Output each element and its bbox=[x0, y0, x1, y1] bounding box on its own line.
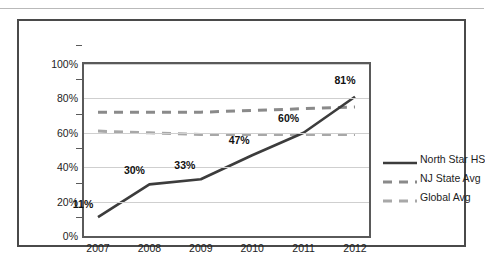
legend-item-nj-state-avg[interactable]: NJ State Avg bbox=[383, 168, 481, 187]
y-tick-label: 100% bbox=[38, 58, 78, 70]
y-tick-label: 60% bbox=[38, 127, 78, 139]
data-value-label: 47% bbox=[229, 134, 250, 146]
x-tick-label: 2012 bbox=[343, 242, 366, 254]
x-tick-label: 2011 bbox=[292, 242, 315, 254]
data-value-label: 81% bbox=[334, 74, 355, 86]
x-tick-label: 2007 bbox=[86, 242, 109, 254]
x-axis-tick-labels: 200720082009201020112012 bbox=[82, 242, 371, 260]
chart-figure-frame: 0%20%40%60%80%100% 11%30%33%47%60%81% 20… bbox=[17, 19, 466, 247]
plot-area: 11%30%33%47%60%81% bbox=[82, 62, 371, 238]
y-tick-mark bbox=[76, 183, 82, 184]
data-value-label: 60% bbox=[278, 112, 299, 124]
x-tick-label: 2009 bbox=[189, 242, 212, 254]
page-top-rule bbox=[0, 8, 484, 9]
gridline bbox=[84, 202, 369, 203]
y-tick-label: 80% bbox=[38, 92, 78, 104]
legend-swatch-icon bbox=[383, 154, 417, 164]
y-tick-mark bbox=[76, 79, 82, 80]
gridline bbox=[84, 133, 369, 134]
data-value-label: 30% bbox=[124, 164, 145, 176]
chart-legend: North Star HSNJ State AvgGlobal Avg bbox=[383, 149, 481, 206]
data-value-label: 33% bbox=[174, 159, 195, 171]
x-tick-label: 2010 bbox=[241, 242, 264, 254]
gridline bbox=[84, 98, 369, 99]
y-tick-mark bbox=[76, 148, 82, 149]
series-lines bbox=[84, 64, 369, 236]
legend-swatch-icon bbox=[383, 192, 417, 202]
y-tick-mark bbox=[76, 217, 82, 218]
legend-item-global-avg[interactable]: Global Avg bbox=[383, 187, 481, 206]
legend-label: North Star HS bbox=[420, 153, 485, 165]
data-value-label: 11% bbox=[73, 198, 93, 210]
y-tick-mark bbox=[76, 114, 82, 115]
legend-label: NJ State Avg bbox=[420, 172, 481, 184]
y-tick-label: 0% bbox=[38, 230, 78, 242]
gridline bbox=[84, 64, 369, 65]
y-tick-label: 40% bbox=[38, 161, 78, 173]
x-tick-label: 2008 bbox=[138, 242, 161, 254]
series-line-nj-state-avg bbox=[98, 107, 355, 112]
legend-swatch-icon bbox=[383, 173, 417, 183]
y-axis-tick-labels: 0%20%40%60%80%100% bbox=[34, 62, 78, 238]
legend-item-north-star-hs[interactable]: North Star HS bbox=[383, 149, 481, 168]
legend-label: Global Avg bbox=[420, 191, 471, 203]
series-line-north-star-hs bbox=[98, 97, 355, 217]
y-tick-mark bbox=[76, 45, 82, 46]
